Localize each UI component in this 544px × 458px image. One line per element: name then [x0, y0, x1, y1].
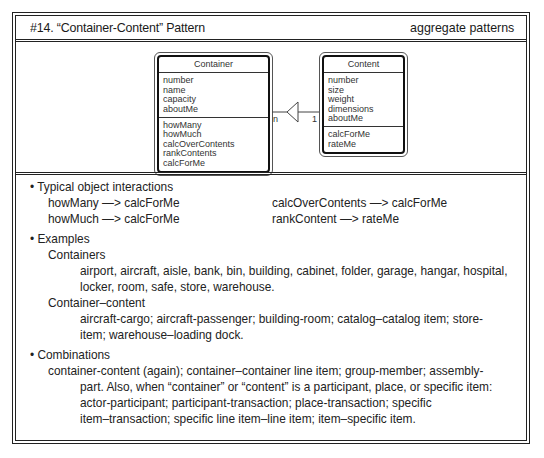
- containers-examples: airport, aircraft, aisle, bank, bin, bui…: [80, 263, 508, 279]
- interaction-item: howMany —> calcForMe: [48, 195, 180, 211]
- pattern-header: #14. “Container-Content” Pattern aggrega…: [16, 16, 526, 39]
- attribute: aboutMe: [328, 114, 400, 123]
- containers-examples: locker, room, safe, store, warehouse.: [80, 279, 275, 295]
- container-class[interactable]: Container number name capacity aboutMe h…: [154, 52, 273, 176]
- container-class-name: Container: [159, 57, 268, 73]
- interaction-item: calcOverContents —> calcForMe: [272, 195, 447, 211]
- pattern-description: • Typical object interactions howMany —>…: [16, 176, 526, 440]
- interaction-item: rankContent —> rateMe: [272, 211, 399, 227]
- content-class[interactable]: Content number size weight dimensions ab…: [319, 52, 408, 157]
- service: calcForMe: [163, 159, 265, 168]
- interaction-item: howMuch —> calcForMe: [48, 211, 180, 227]
- combinations-text: item–transaction; specific line item–lin…: [80, 411, 416, 427]
- container-content-examples: item; warehouse–loading dock.: [80, 327, 244, 343]
- container-services: howMany howMuch calcOverContents rankCon…: [159, 117, 268, 171]
- container-content-examples: aircraft-cargo; aircraft-passenger; buil…: [80, 311, 483, 327]
- combinations-text: actor-participant; participant-transacti…: [80, 395, 432, 411]
- content-multiplicity: 1: [312, 114, 317, 124]
- combinations-text: part. Also, when “container” or “content…: [80, 379, 492, 395]
- containers-label: Containers: [48, 247, 105, 263]
- content-services: calcForMe rateMe: [324, 126, 403, 152]
- content-attributes: number size weight dimensions aboutMe: [324, 73, 403, 126]
- pattern-title: #14. “Container-Content” Pattern: [30, 20, 205, 35]
- attribute: aboutMe: [163, 105, 265, 114]
- whole-part-triangle-icon: [287, 102, 298, 122]
- pattern-category: aggregate patterns: [410, 20, 514, 35]
- content-class-name: Content: [324, 57, 403, 73]
- pattern-card: #14. “Container-Content” Pattern aggrega…: [12, 12, 530, 444]
- service: rateMe: [328, 140, 400, 149]
- examples-heading: • Examples: [30, 231, 90, 247]
- interactions-heading: • Typical object interactions: [30, 179, 173, 195]
- container-content-label: Container–content: [48, 295, 145, 311]
- container-attributes: number name capacity aboutMe: [159, 73, 268, 117]
- class-diagram: Container number name capacity aboutMe h…: [16, 42, 526, 172]
- pattern-card-inner: #14. “Container-Content” Pattern aggrega…: [15, 15, 527, 441]
- diagram-divider: [16, 172, 526, 175]
- container-multiplicity: n: [273, 114, 278, 124]
- combinations-heading: • Combinations: [30, 347, 110, 363]
- combinations-text: container-content (again); container–con…: [48, 363, 483, 379]
